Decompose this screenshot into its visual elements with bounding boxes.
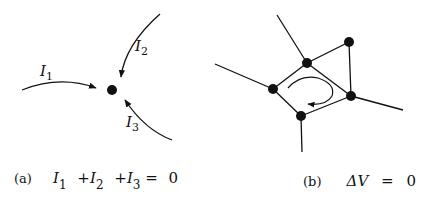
- label-i2: I2: [134, 37, 148, 58]
- sub-1: 1: [59, 178, 67, 192]
- current-i1-arrow: [22, 82, 96, 90]
- panel-a-junction: I1 I2 I3: [22, 14, 172, 140]
- equals-sign: =: [381, 172, 394, 190]
- equals-sign: =: [145, 169, 158, 187]
- node: [344, 37, 354, 47]
- current-i3-arrow: [125, 100, 172, 140]
- caption-b: (b) ΔV = 0: [303, 171, 416, 190]
- loop-edge: [307, 63, 351, 96]
- sub-3: 3: [133, 178, 141, 192]
- node: [268, 84, 278, 94]
- rhs-zero: 0: [406, 172, 416, 190]
- loop-edge: [301, 96, 351, 116]
- loop-edge: [307, 42, 349, 63]
- label-i1: I1: [39, 62, 53, 83]
- caption-a: (a) I1 +I2 +I3 = 0: [14, 168, 178, 192]
- branch-line: [277, 15, 307, 63]
- plus-sign: +: [77, 169, 90, 187]
- loop-circulation-arrow: [288, 77, 333, 104]
- node: [346, 91, 356, 101]
- junction-node: [107, 85, 117, 95]
- loop-edge: [273, 89, 301, 116]
- kcl-equation: I1 +I2 +I3 = 0: [53, 169, 178, 187]
- branch-line: [351, 96, 403, 110]
- panel-b-loop: [215, 15, 403, 152]
- node: [302, 58, 312, 68]
- branch-line: [215, 64, 273, 89]
- caption-a-tag: (a): [14, 171, 32, 186]
- node: [296, 111, 306, 121]
- plus-sign: +: [114, 169, 127, 187]
- caption-b-tag: (b): [303, 174, 321, 189]
- delta-v: ΔV: [347, 172, 369, 190]
- loop-edge: [349, 42, 351, 96]
- sub-2: 2: [96, 178, 104, 192]
- panel-b-nodes: [268, 37, 356, 121]
- kvl-equation: ΔV = 0: [347, 172, 416, 190]
- branch-line: [301, 116, 302, 152]
- rhs-zero: 0: [169, 169, 179, 187]
